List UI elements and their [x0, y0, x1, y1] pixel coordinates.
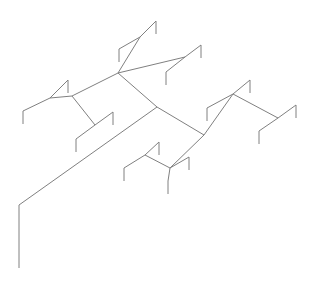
left-node-to-sub-node [50, 96, 72, 98]
lower-fork-to-mid-node [170, 135, 204, 168]
upper-sub-to-leaf-m-arm [145, 142, 159, 155]
right-cluster-to-leaf-j-arm [207, 94, 233, 108]
sub-node-to-leaf-f-arm [23, 98, 50, 111]
sub-node-to-leaf-e-arm [50, 80, 68, 98]
right-node-to-leaf-c-arm [185, 45, 201, 57]
mid-node-to-upper-sub [145, 155, 170, 168]
lower-fork-to-right-cluster [204, 94, 233, 135]
left-node-to-lower-node [72, 96, 95, 125]
right-cluster-to-outer-node [233, 94, 278, 118]
mid-node-to-leaf-p-arm [168, 168, 170, 181]
tree-diagram [0, 0, 316, 281]
upper-sub-to-leaf-n-arm [124, 155, 145, 168]
top-node-to-leaf-a-arm [140, 21, 156, 37]
edge-group [19, 21, 296, 268]
main-trunk [19, 107, 157, 205]
lower-node-to-leaf-h-arm [76, 125, 95, 139]
trunk-to-upper-fork [118, 73, 157, 107]
outer-node-to-leaf-l-arm [259, 118, 278, 131]
diagram-canvas [0, 0, 316, 281]
right-cluster-to-leaf-i-arm [233, 80, 250, 94]
upper-fork-to-left-node [72, 73, 118, 96]
upper-fork-to-top-node [118, 37, 140, 73]
trunk-to-lower-fork [157, 107, 204, 135]
lower-node-to-leaf-g-arm [95, 112, 113, 125]
outer-node-to-leaf-k-arm [278, 105, 296, 118]
